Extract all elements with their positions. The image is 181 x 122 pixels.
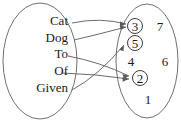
domain-item-of: Of <box>54 63 68 78</box>
domain-item-given: Given <box>36 80 68 95</box>
codomain-item-3: 3 <box>132 19 139 34</box>
codomain-item-5: 5 <box>132 36 139 51</box>
mapping-diagram: Cat Dog To Of Given 3 7 5 4 6 2 1 <box>0 0 181 122</box>
codomain-item-2: 2 <box>137 71 144 86</box>
arrow-line-cat-to-3 <box>72 20 126 24</box>
codomain-item-4: 4 <box>128 54 135 69</box>
codomain-item-1: 1 <box>145 92 152 107</box>
domain-item-to: To <box>54 46 68 61</box>
codomain-item-6: 6 <box>162 54 169 69</box>
domain-item-dog: Dog <box>46 30 69 45</box>
diagram-canvas: Cat Dog To Of Given 3 7 5 4 6 2 1 <box>0 0 181 122</box>
codomain-item-7: 7 <box>157 19 164 34</box>
domain-item-cat: Cat <box>50 13 68 28</box>
